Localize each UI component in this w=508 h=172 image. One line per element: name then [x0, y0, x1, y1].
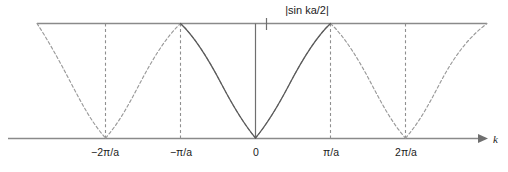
- tick-label-2pi-a: 2π/a: [395, 146, 417, 158]
- tick-label-zero: 0: [253, 146, 259, 158]
- figure-container: −2π/a −π/a 0 π/a 2π/a k |sin ka/2|: [0, 0, 508, 172]
- tick-label-pi-a: π/a: [323, 146, 339, 158]
- k-axis-arrow-icon: [478, 134, 488, 143]
- dashed-curve-far-right: [406, 24, 488, 139]
- solid-curve-left-branch: [181, 24, 256, 139]
- curve-label-sin-ka-half: |sin ka/2|: [285, 4, 329, 16]
- dashed-curve-far-left: [37, 24, 106, 139]
- tick-label-minus-2pi-a: −2π/a: [91, 146, 119, 158]
- dashed-curve-right-arch: [331, 24, 406, 139]
- dashed-curve-left-inner: [181, 24, 256, 139]
- solid-curve-right-branch: [256, 24, 331, 139]
- dashed-curve-right-inner: [256, 24, 331, 139]
- axis-label-k: k: [493, 133, 499, 145]
- sin-ka-half-plot: −2π/a −π/a 0 π/a 2π/a k |sin ka/2|: [0, 0, 508, 172]
- dashed-curve-left-arch: [106, 24, 181, 139]
- tick-label-minus-pi-a: −π/a: [170, 146, 192, 158]
